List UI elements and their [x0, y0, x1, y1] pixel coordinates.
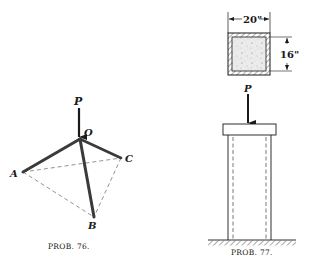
label-b: B	[87, 220, 96, 231]
base-triangle-dashed	[23, 158, 121, 217]
bar-ob	[80, 139, 94, 217]
bearing-cap	[223, 124, 276, 135]
ground-hatching	[208, 241, 296, 246]
prob-76-figure: P O C A B PROB. 76.	[9, 95, 133, 251]
width-label: 20"	[243, 14, 262, 25]
height-label: 16"	[280, 49, 299, 60]
caption-prob-77: PROB. 77.	[231, 248, 273, 257]
column-elevation: P PROB. 77.	[208, 83, 296, 257]
caption-prob-76: PROB. 76.	[48, 242, 90, 251]
label-o: O	[84, 127, 93, 138]
bar-oa	[23, 139, 80, 172]
label-p: P	[243, 83, 252, 94]
bar-oc	[80, 139, 121, 158]
tripod-bars	[23, 139, 121, 217]
label-a: A	[9, 168, 18, 179]
prob-77-figure: 20" 16" P PROB. 77.	[208, 12, 299, 257]
concrete-core	[232, 37, 266, 71]
label-p: P	[73, 95, 83, 108]
label-c: C	[125, 153, 133, 164]
figure-canvas: P O C A B PROB. 76. 20" 16"	[0, 0, 319, 263]
cross-section: 20" 16"	[228, 12, 299, 75]
